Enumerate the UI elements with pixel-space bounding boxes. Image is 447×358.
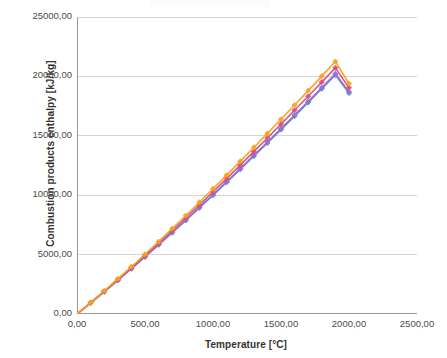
x-tick-label: 2500,00 (382, 318, 447, 329)
y-axis-tick-labels: 0,005000,0010000,0015000,0020000,0025000… (0, 0, 72, 358)
x-tick-label: 2000,00 (314, 318, 384, 329)
y-tick-label: 20000,00 (2, 69, 72, 80)
plot-area (77, 17, 417, 314)
y-tick-label: 0,00 (2, 307, 72, 318)
x-tick-label: 500,00 (110, 318, 180, 329)
y-tick-label: 5000,00 (2, 248, 72, 259)
y-tick-label: 15000,00 (2, 129, 72, 140)
image-artifact (150, 0, 270, 7)
data-series (77, 59, 352, 314)
x-tick-label: 1500,00 (246, 318, 316, 329)
x-axis-title: Temperature [°C] (76, 339, 416, 350)
x-tick-label: 1000,00 (178, 318, 248, 329)
x-tick-label: 0,00 (42, 318, 112, 329)
y-tick-label: 10000,00 (2, 188, 72, 199)
plot-svg (77, 17, 417, 314)
y-tick-label: 25000,00 (2, 10, 72, 21)
combustion-enthalpy-chart: Combustion products enthalpy [kJ/kg] 0,0… (0, 0, 447, 358)
x-axis-tick-labels: 0,00500,001000,001500,002000,002500,00 (0, 318, 447, 334)
